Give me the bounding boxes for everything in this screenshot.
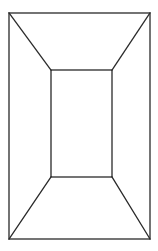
corner-connectors [9,13,150,239]
connector-bottom-right [112,177,150,239]
inner-rectangle [51,70,112,177]
connector-bottom-left [9,177,51,239]
frustum-figure [0,0,158,251]
diagram-canvas [0,0,158,251]
connector-top-right [112,13,150,70]
connector-top-left [9,13,51,70]
